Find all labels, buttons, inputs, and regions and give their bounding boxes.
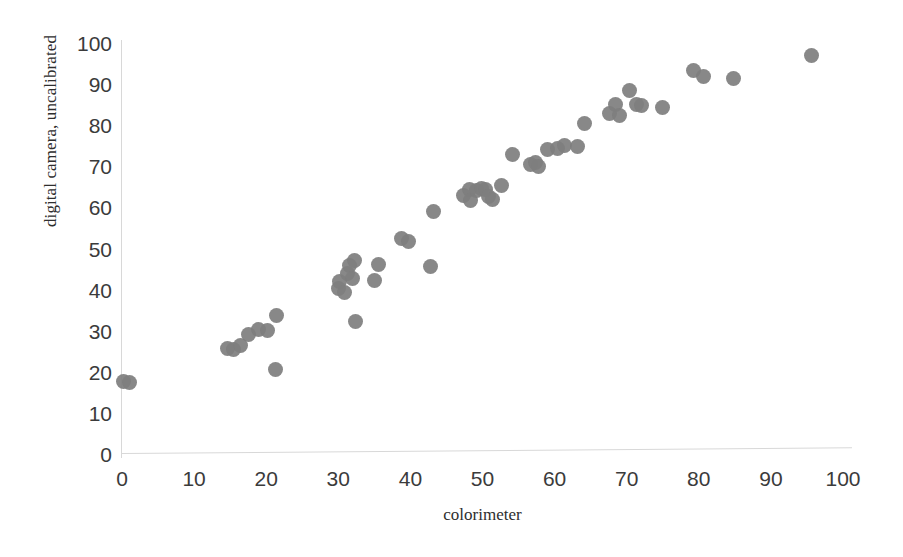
data-point [655,100,670,115]
data-point [268,362,283,377]
data-point [269,308,284,323]
data-point [494,178,509,193]
y-tick-20: 20 [52,362,112,383]
data-point [401,234,416,249]
data-point [367,273,382,288]
data-point [622,83,637,98]
data-point [531,159,546,174]
data-point [634,98,649,113]
data-point [570,139,585,154]
data-point [804,48,819,63]
y-axis-title: digital camera, uncalibrated [41,0,67,281]
data-point [485,192,500,207]
y-tick-10: 10 [52,403,112,424]
x-axis-tick-labels: 0102030405060708090100 [0,468,903,498]
x-tick-40: 40 [380,468,440,489]
y-tick-40: 40 [52,280,112,301]
y-tick-0: 0 [52,444,112,465]
x-tick-60: 60 [525,468,585,489]
data-point [696,69,711,84]
data-point [426,204,441,219]
x-tick-20: 20 [236,468,296,489]
scatter-plot-figure: 0102030405060708090100 01020304050607080… [0,0,903,557]
data-point [260,323,275,338]
data-point [337,285,352,300]
data-point [347,253,362,268]
x-tick-70: 70 [597,468,657,489]
x-tick-80: 80 [669,468,729,489]
y-tick-30: 30 [52,321,112,342]
x-tick-100: 100 [813,468,873,489]
data-point [348,314,363,329]
data-point [122,375,137,390]
x-tick-30: 30 [308,468,368,489]
plot-area [122,44,843,455]
x-tick-10: 10 [164,468,224,489]
data-point [345,271,360,286]
x-tick-90: 90 [741,468,801,489]
x-tick-0: 0 [92,468,152,489]
data-point [577,116,592,131]
data-point [371,257,386,272]
data-point [726,71,741,86]
data-point [505,147,520,162]
data-point [612,108,627,123]
x-tick-50: 50 [453,468,513,489]
data-point [423,259,438,274]
x-axis-title: colorimeter [122,505,843,525]
